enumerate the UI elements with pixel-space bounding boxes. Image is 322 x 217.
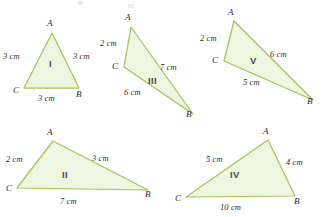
triangle-5-roman: V xyxy=(250,56,257,66)
triangle-4-vertex-c: C xyxy=(175,194,181,203)
triangle-2-side-ab: 3 cm xyxy=(92,154,109,163)
triangle-3-shape xyxy=(124,27,193,114)
triangle-2-side-cb: 7 cm xyxy=(60,197,77,206)
triangle-1-side-cb: 3 cm xyxy=(38,94,55,103)
triangle-4-vertex-b: B xyxy=(294,197,300,206)
triangle-2-roman: II xyxy=(62,170,68,180)
triangle-1-roman: I xyxy=(49,59,52,69)
triangle-2-vertex-b: B xyxy=(145,190,151,199)
triangle-5-vertex-c: C xyxy=(212,56,218,65)
triangle-5-shape xyxy=(224,21,313,100)
triangle-4-side-ca: 5 cm xyxy=(206,155,223,164)
scan-artifact-top-left xyxy=(78,1,83,5)
triangle-3-vertex-b: B xyxy=(186,110,192,119)
triangle-2-vertex-c: C xyxy=(6,184,12,193)
triangles-canvas xyxy=(0,0,322,217)
triangle-3-side-ca: 2 cm xyxy=(100,39,117,48)
triangle-2-shape xyxy=(17,141,148,190)
triangle-3-side-cb: 6 cm xyxy=(124,88,141,97)
triangle-4-shape xyxy=(186,140,295,197)
triangle-4-side-cb: 10 cm xyxy=(220,203,241,212)
triangle-1-vertex-a: A xyxy=(47,19,53,28)
triangle-4-side-ab: 4 cm xyxy=(286,158,303,167)
triangle-5-side-cb: 5 cm xyxy=(243,78,260,87)
triangle-5-side-ca: 2 cm xyxy=(200,34,217,43)
triangle-1-side-ab: 3 cm xyxy=(73,52,90,61)
triangle-4-roman: IV xyxy=(230,170,240,180)
triangle-5-vertex-a: A xyxy=(228,8,234,17)
triangle-4-vertex-a: A xyxy=(263,127,269,136)
triangle-5-side-ab: 6 cm xyxy=(270,50,287,59)
triangle-1-side-ca: 3 cm xyxy=(3,52,20,61)
triangle-3-roman: III xyxy=(148,76,157,86)
triangle-3-vertex-c: C xyxy=(112,62,118,71)
triangle-1-vertex-c: C xyxy=(13,86,19,95)
triangle-3-vertex-a: A xyxy=(125,13,131,22)
triangle-5-vertex-b: B xyxy=(307,97,313,106)
triangle-2-side-ca: 2 cm xyxy=(6,155,23,164)
triangle-2-vertex-a: A xyxy=(47,128,53,137)
triangle-1-vertex-b: B xyxy=(76,90,82,99)
worksheet-page: I A B C 3 cm 3 cm 3 cm III A B C 2 cm 7 … xyxy=(0,0,322,217)
scan-artifact-top-right xyxy=(128,4,134,8)
triangle-3-side-ab: 7 cm xyxy=(160,63,177,72)
